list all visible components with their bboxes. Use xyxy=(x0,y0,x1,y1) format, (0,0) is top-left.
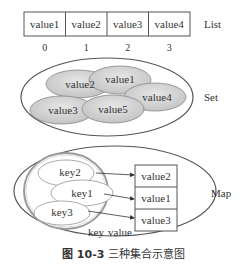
list-index: 2 xyxy=(125,42,130,53)
list-index: 0 xyxy=(42,42,47,53)
caption-text: 三种集合示意图 xyxy=(108,247,185,261)
collections-diagram: value1 value2 value3 value4 0 1 2 3 List… xyxy=(0,0,242,265)
map-key: key3 xyxy=(51,206,73,218)
map-value: value3 xyxy=(141,214,171,226)
map-label: Map xyxy=(211,187,232,199)
map-key: key1 xyxy=(71,187,92,199)
list-index: 3 xyxy=(167,42,172,53)
list-cell: value2 xyxy=(72,18,101,30)
key-label: key xyxy=(88,226,104,238)
list-cell: value3 xyxy=(113,18,143,30)
list-diagram: value1 value2 value3 value4 0 1 2 3 List xyxy=(24,12,221,53)
list-index: 1 xyxy=(84,42,89,53)
list-cell: value1 xyxy=(30,18,59,30)
map-value: value2 xyxy=(141,170,170,182)
set-element: value3 xyxy=(48,104,78,116)
set-element: value1 xyxy=(105,73,134,85)
set-diagram: value2 value1 value4 value3 value5 Set xyxy=(21,58,218,136)
list-cell: value4 xyxy=(155,18,185,30)
set-element: value5 xyxy=(98,103,128,115)
set-element: value2 xyxy=(65,78,94,90)
map-key: key2 xyxy=(59,166,80,178)
map-diagram: key2 key1 key3 value2 value1 value3 key … xyxy=(14,146,232,238)
map-value: value1 xyxy=(141,192,170,204)
set-label: Set xyxy=(204,91,218,103)
value-label: value xyxy=(108,226,132,238)
set-element: value4 xyxy=(142,91,172,103)
list-label: List xyxy=(204,18,221,30)
caption-number: 图 10-3 xyxy=(62,248,104,261)
figure-caption: 图 10-3 三种集合示意图 xyxy=(62,247,185,261)
